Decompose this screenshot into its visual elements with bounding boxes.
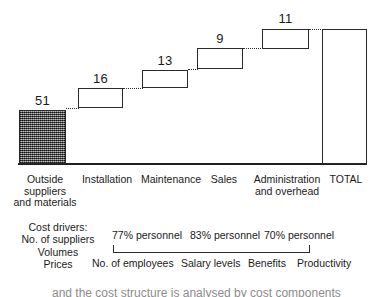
- waterfall-chart: 51 16 13 9 11 Outside suppliers and mate…: [0, 0, 377, 297]
- category-line-1: Sales: [203, 174, 245, 186]
- bar-value-sales: 9: [197, 31, 243, 46]
- connector-3: [188, 69, 198, 70]
- personnel-percentage-2: 83% personnel: [190, 229, 260, 241]
- category-line-3: and materials: [0, 197, 90, 209]
- baseline-axis: [18, 163, 367, 165]
- bar-total[interactable]: [322, 29, 367, 164]
- bar-value-administration: 11: [262, 11, 309, 26]
- cost-drivers-heading: Cost drivers:: [2, 221, 114, 233]
- category-line-1: Installation: [77, 174, 137, 186]
- plot-area: 51 16 13 9 11: [0, 0, 377, 170]
- bar-value-maintenance: 13: [142, 53, 188, 68]
- driver-item-benefits: Benefits: [248, 257, 286, 269]
- category-line-1: Administration: [249, 174, 325, 186]
- bar-value-outside-suppliers: 51: [19, 93, 66, 108]
- cost-driver-item-suppliers: No. of suppliers: [2, 233, 114, 245]
- bar-outside-suppliers[interactable]: [19, 110, 66, 164]
- category-label-installation: Installation: [77, 174, 137, 186]
- bar-sales[interactable]: [197, 48, 243, 69]
- driver-item-productivity: Productivity: [297, 257, 351, 269]
- driver-item-salary-levels: Salary levels: [181, 257, 241, 269]
- connector-5: [309, 29, 323, 30]
- category-label-administration: Administration and overhead: [249, 174, 325, 197]
- personnel-percentage-1: 77% personnel: [112, 229, 182, 241]
- drivers-bracket: [113, 245, 310, 254]
- category-line-2: and overhead: [249, 186, 325, 198]
- connector-1: [66, 108, 79, 109]
- category-line-1: Maintenance: [136, 174, 206, 186]
- personnel-percentage-3: 70% personnel: [264, 229, 334, 241]
- bar-administration[interactable]: [262, 29, 309, 49]
- category-label-total: TOTAL: [322, 174, 370, 186]
- bar-maintenance[interactable]: [142, 70, 188, 88]
- connector-4: [243, 48, 263, 49]
- category-label-maintenance: Maintenance: [136, 174, 206, 186]
- drivers-row: No. of employees Salary levels Benefits …: [92, 257, 377, 271]
- page-caption: and the cost structure is analysed by co…: [52, 287, 377, 297]
- category-line-1: TOTAL: [322, 174, 370, 186]
- bar-installation[interactable]: [78, 88, 123, 108]
- driver-item-employees: No. of employees: [92, 257, 174, 269]
- bracket-horizontal-bar: [113, 252, 310, 253]
- bar-value-installation: 16: [78, 71, 123, 86]
- personnel-percentages-row: 77% personnel 83% personnel 70% personne…: [112, 229, 324, 243]
- connector-2: [123, 88, 143, 89]
- bracket-tick-right: [309, 245, 310, 253]
- category-label-sales: Sales: [203, 174, 245, 186]
